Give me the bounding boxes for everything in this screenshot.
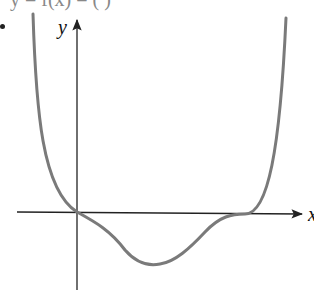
x-axis — [17, 212, 302, 214]
function-curve — [33, 14, 286, 265]
y-axis-label: y — [58, 17, 67, 37]
function-graph — [0, 0, 314, 290]
x-axis-label: x — [308, 204, 314, 224]
